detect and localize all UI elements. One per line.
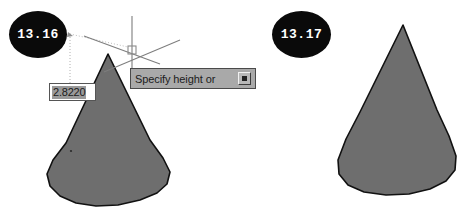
command-prompt-tooltip: Specify height or (130, 68, 256, 89)
height-input-field[interactable]: 2.8220 (49, 83, 96, 101)
crosshair-axis-left (84, 36, 160, 64)
drawing-canvas (0, 0, 470, 207)
tracking-arrow-icon (67, 32, 73, 37)
expand-options-icon[interactable] (238, 72, 251, 85)
figure-badge-label: 13.16 (17, 27, 59, 42)
screenshot-root: . . . . (0, 0, 470, 207)
tracking-line-leader (70, 34, 128, 47)
figure-badge-13-17: 13.17 (272, 11, 331, 58)
cone-right (338, 25, 456, 195)
height-input-value[interactable]: 2.8220 (52, 86, 86, 99)
cone-left-speck (70, 150, 72, 152)
cone-right-body (338, 25, 456, 195)
figure-badge-13-16: 13.16 (9, 11, 67, 58)
figure-badge-label: 13.17 (281, 27, 323, 42)
command-prompt-text: Specify height or (135, 73, 238, 85)
